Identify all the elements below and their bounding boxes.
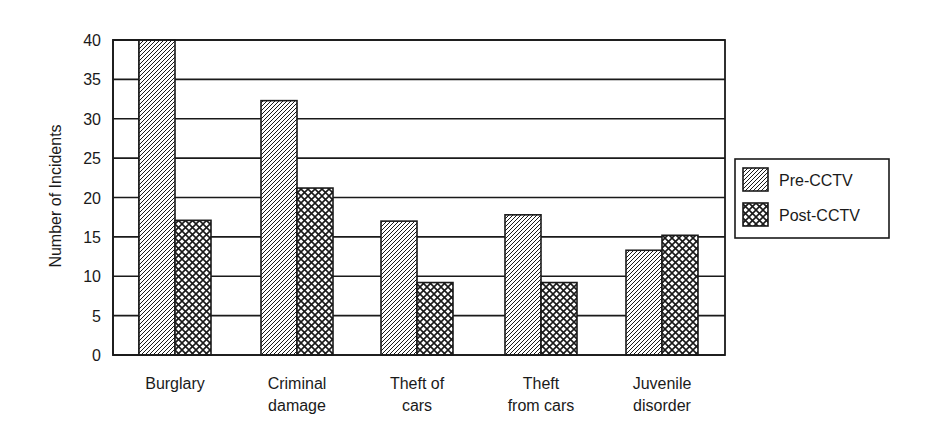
legend-swatch-pre-cctv bbox=[743, 168, 768, 191]
x-category-label: Criminaldamage bbox=[268, 375, 327, 414]
y-tick-label: 5 bbox=[92, 308, 101, 325]
bar-post-cctv-burglary bbox=[175, 220, 211, 355]
y-axis-title: Number of Incidents bbox=[47, 124, 64, 267]
bar-post-cctv-criminal-damage bbox=[297, 188, 333, 355]
bar-pre-cctv-criminal-damage bbox=[261, 101, 297, 355]
bar-post-cctv-juvenile-disorder bbox=[662, 235, 698, 355]
bar-post-cctv-theft-from-cars bbox=[541, 283, 577, 355]
x-category-label: Juveniledisorder bbox=[633, 375, 692, 414]
y-tick-label: 25 bbox=[83, 150, 101, 167]
y-tick-label: 0 bbox=[92, 347, 101, 364]
bar-pre-cctv-theft-of-cars bbox=[381, 221, 417, 355]
y-tick-label: 10 bbox=[83, 268, 101, 285]
x-category-label: Burglary bbox=[145, 375, 205, 392]
bar-pre-cctv-juvenile-disorder bbox=[626, 250, 662, 355]
legend: Pre-CCTVPost-CCTV bbox=[735, 159, 889, 238]
y-tick-label: 15 bbox=[83, 229, 101, 246]
legend-label-pre-cctv: Pre-CCTV bbox=[779, 172, 853, 189]
bar-post-cctv-theft-of-cars bbox=[417, 283, 453, 355]
x-category-label: Theftfrom cars bbox=[508, 375, 575, 414]
y-axis-ticks: 0510152025303540 bbox=[83, 32, 101, 364]
y-tick-label: 40 bbox=[83, 32, 101, 49]
y-tick-label: 20 bbox=[83, 190, 101, 207]
y-tick-label: 30 bbox=[83, 111, 101, 128]
bar-chart: 0510152025303540 BurglaryCriminaldamageT… bbox=[0, 0, 931, 441]
y-tick-label: 35 bbox=[83, 71, 101, 88]
legend-label-post-cctv: Post-CCTV bbox=[779, 207, 860, 224]
x-category-label: Theft ofcars bbox=[390, 375, 445, 414]
bar-pre-cctv-theft-from-cars bbox=[505, 215, 541, 355]
x-axis-categories: BurglaryCriminaldamageTheft ofcarsTheftf… bbox=[145, 375, 691, 414]
legend-swatch-post-cctv bbox=[743, 203, 768, 226]
bar-pre-cctv-burglary bbox=[139, 40, 175, 355]
